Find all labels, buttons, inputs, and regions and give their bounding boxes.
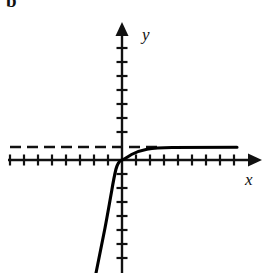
x-axis-arrowhead (248, 154, 262, 167)
y-axis-label: y (140, 25, 150, 44)
figure-container: b (0, 0, 270, 273)
graph-plot: y x (0, 0, 270, 273)
y-axis-arrowhead (116, 22, 129, 36)
function-curve (96, 147, 237, 273)
x-axis-label: x (244, 170, 253, 189)
